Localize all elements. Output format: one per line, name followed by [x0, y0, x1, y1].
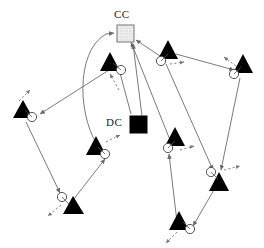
edge-n5-to-n8 [166, 64, 213, 170]
cc-station[interactable] [117, 25, 134, 42]
dc-station[interactable] [130, 116, 147, 133]
dashed-heading-arrow-icon [166, 232, 177, 243]
dashed-heading-arrow-icon [224, 166, 240, 170]
dashed-heading-arrow-icon [170, 62, 184, 64]
edge-n8-to-n9 [193, 188, 215, 226]
agent-node-upper-left[interactable] [100, 52, 126, 90]
agent-node-mid-left[interactable] [86, 135, 120, 159]
agent-node-upper-right[interactable] [224, 54, 253, 79]
agent-node-upper-mid[interactable] [156, 40, 184, 66]
cc-label: CC [114, 8, 130, 20]
edge-n5-to-n6 [176, 54, 234, 70]
cc-square-icon [117, 25, 134, 42]
dc-label: DC [106, 116, 122, 128]
dashed-heading-arrow-icon [180, 146, 194, 150]
agent-node-right-lower[interactable] [206, 166, 240, 191]
agent-node-left[interactable] [13, 90, 37, 122]
edge-n1-to-dc [120, 73, 131, 114]
diagram-svg [0, 0, 264, 248]
dc-square-icon [130, 116, 147, 133]
agent-node-bottom-left[interactable] [48, 192, 84, 216]
diagram-canvas: CC DC [0, 0, 264, 248]
edge-n9-to-n7 [169, 154, 177, 222]
dashed-heading-arrow-icon [110, 74, 119, 90]
edge-n5-to-cc [136, 40, 160, 56]
agent-node-bottom-right[interactable] [166, 211, 195, 243]
dashed-heading-arrow-icon [224, 57, 236, 66]
edge-n4-to-n3 [73, 159, 105, 200]
dashed-heading-arrow-icon [19, 90, 30, 101]
edge-n2-to-n4 [26, 122, 60, 193]
agent-node-mid-right[interactable] [163, 127, 194, 153]
edge-dc-to-cc [133, 44, 142, 116]
edge-n1-to-n2 [40, 70, 109, 114]
dashed-heading-arrow-icon [48, 205, 61, 216]
dashed-heading-arrow-icon [106, 135, 120, 142]
edge-n3-to-cc [83, 33, 114, 150]
edge-n6-to-n8 [221, 78, 240, 170]
